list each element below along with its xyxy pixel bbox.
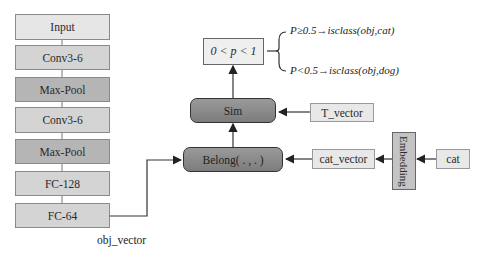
rule-cat: P≥0.5→isclass(obj,cat) xyxy=(290,24,394,36)
layer-maxpool-1: Max-Pool xyxy=(15,77,110,102)
layer-fc-128: FC-128 xyxy=(15,171,110,196)
layer-input: Input xyxy=(15,14,110,40)
layer-label: Max-Pool xyxy=(40,146,86,158)
obj-vector-label: obj_vector xyxy=(97,234,146,246)
belong-label: Belong( . , . ) xyxy=(202,154,263,166)
probability-range-label: 0 < p < 1 xyxy=(210,44,256,59)
t-vector-box: T_vector xyxy=(310,103,374,122)
layer-conv-1: Conv3-6 xyxy=(15,45,110,70)
embedding-box: Embedding xyxy=(392,132,416,190)
probability-range-box: 0 < p < 1 xyxy=(203,38,264,65)
layer-label: FC-64 xyxy=(48,210,77,222)
embedding-label: Embedding xyxy=(398,136,410,187)
layer-maxpool-2: Max-Pool xyxy=(15,139,110,164)
layer-label: Max-Pool xyxy=(40,84,86,96)
sim-node: Sim xyxy=(190,98,276,123)
sim-label: Sim xyxy=(224,105,243,117)
layer-label: Conv3-6 xyxy=(42,114,82,126)
layer-label: Input xyxy=(50,21,74,33)
layer-conv-2: Conv3-6 xyxy=(15,107,110,133)
belong-node: Belong( . , . ) xyxy=(183,147,283,172)
cat-vector-box: cat_vector xyxy=(312,149,375,169)
rule-dog: P<0.5→isclass(obj,dog) xyxy=(290,64,399,76)
layer-fc-64: FC-64 xyxy=(15,203,110,228)
cat-box: cat xyxy=(436,149,470,169)
layer-label: Conv3-6 xyxy=(42,52,82,64)
cat-label: cat xyxy=(446,153,459,165)
cat-vector-label: cat_vector xyxy=(320,153,368,165)
layer-label: FC-128 xyxy=(45,178,80,190)
t-vector-label: T_vector xyxy=(321,107,363,119)
